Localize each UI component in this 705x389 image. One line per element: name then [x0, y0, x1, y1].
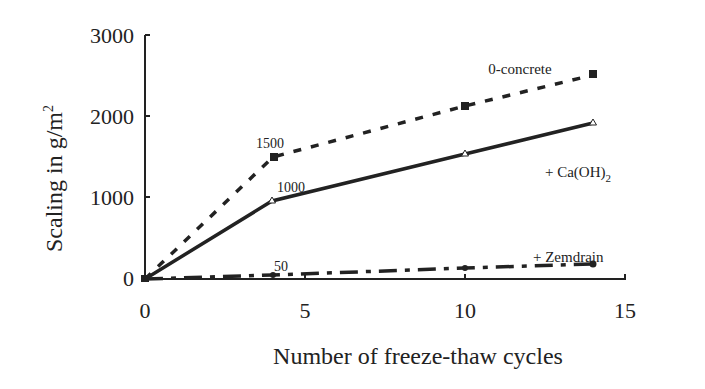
series-caoh2-line: [145, 123, 593, 279]
square-marker: [461, 102, 469, 110]
y-tick-label: 2000: [90, 104, 134, 129]
square-marker: [589, 70, 597, 78]
chart: 3000 2000 1000 0 0 5 10 15 Number of fre…: [0, 0, 705, 389]
x-tick-label: 15: [614, 298, 636, 323]
y-axis-title: Scaling in g/m2: [41, 105, 67, 252]
annotation-1000: 1000: [277, 180, 305, 195]
origin-marker: [141, 275, 149, 282]
square-marker: [270, 153, 278, 161]
series-label-caoh2: + Ca(OH)2: [545, 164, 611, 184]
series-label-zemdrain: + Zemdrain: [533, 249, 604, 265]
x-tick-label: 10: [454, 298, 476, 323]
y-tick-label: 0: [123, 266, 134, 291]
svg-text:Scaling in g/m2: Scaling in g/m2: [41, 105, 67, 252]
annotation-50: 50: [274, 259, 288, 274]
svg-text:+ Ca(OH)2: + Ca(OH)2: [545, 164, 611, 184]
x-tick-label: 0: [140, 298, 151, 323]
series-zemdrain-line: [145, 264, 593, 279]
circle-marker: [462, 265, 468, 271]
series-label-0-concrete: 0-concrete: [488, 61, 552, 77]
y-tick-label: 1000: [90, 185, 134, 210]
x-tick-label: 5: [300, 298, 311, 323]
annotation-1500: 1500: [256, 136, 284, 151]
x-axis-title: Number of freeze-thaw cycles: [273, 343, 563, 369]
y-tick-label: 3000: [90, 23, 134, 48]
